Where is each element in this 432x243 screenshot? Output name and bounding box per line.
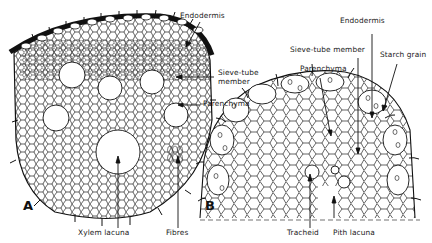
label-a-xylem-lacuna: Xylem lacuna xyxy=(78,229,129,238)
label-a-fibres: Fibres xyxy=(166,229,188,238)
label-b-endodermis: Endodermis xyxy=(340,17,385,26)
label-b-sieve-tube-member: Sieve-tube member xyxy=(290,46,365,55)
label-a-endodermis: Endodermis xyxy=(180,12,225,21)
diagram-canvas xyxy=(0,0,432,243)
label-b-parenchyma: Parenchyma xyxy=(300,65,347,74)
panel-letter-b: B xyxy=(205,198,215,213)
label-b-starch-grain: Starch grain xyxy=(380,51,426,60)
label-b-tracheid: Tracheid xyxy=(287,229,319,238)
label-a-sieve-tube-line2: member xyxy=(218,78,250,87)
panel-letter-a: A xyxy=(23,198,33,213)
label-b-pith-lacuna: Pith lacuna xyxy=(333,229,375,238)
label-a-parenchyma: Parenchyma xyxy=(203,100,250,109)
